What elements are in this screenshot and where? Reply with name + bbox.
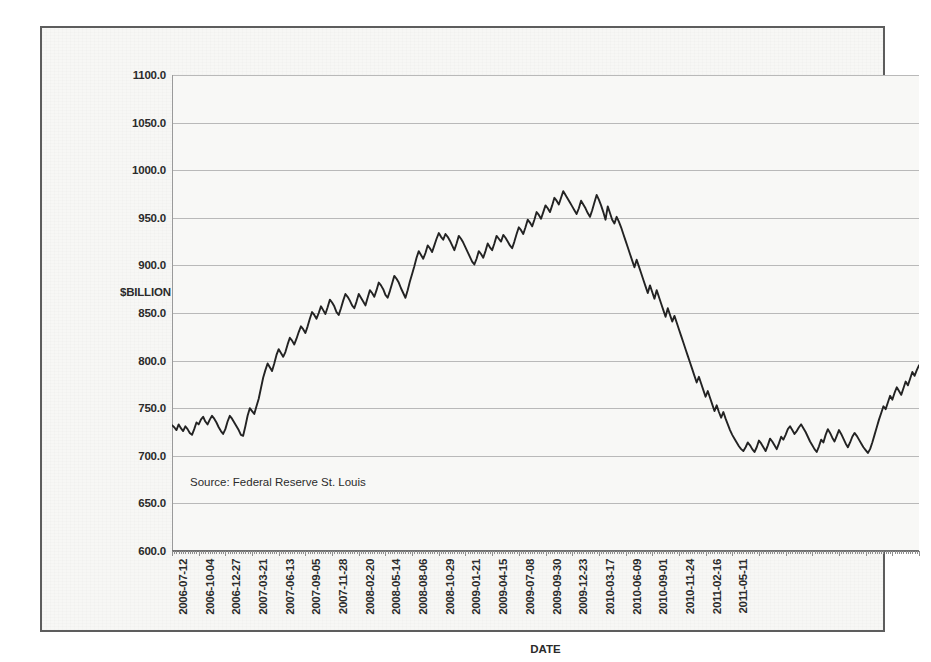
x-axis-minor-tick (219, 551, 220, 554)
x-axis-minor-tick (225, 551, 226, 556)
x-axis-minor-tick (835, 551, 836, 554)
x-axis-minor-tick (612, 551, 613, 554)
x-axis-minor-tick (714, 551, 715, 554)
x-axis-minor-tick (385, 551, 386, 556)
x-axis-minor-tick (234, 551, 235, 554)
x-axis-minor-tick (412, 551, 413, 556)
x-axis-minor-tick (285, 551, 286, 554)
x-axis-minor-tick (439, 551, 440, 556)
x-axis-minor-tick (899, 551, 900, 554)
x-axis-minor-tick (174, 551, 175, 554)
x-axis-minor-tick (459, 551, 460, 554)
x-axis-minor-tick (425, 551, 426, 554)
x-axis-minor-tick (728, 551, 729, 554)
x-axis-minor-tick (414, 551, 415, 554)
x-axis-minor-tick (861, 551, 862, 554)
x-axis-minor-tick (570, 551, 571, 554)
x-axis-minor-tick (461, 551, 462, 554)
y-axis-tick-label: 800.0 (138, 355, 166, 367)
x-axis-minor-tick (552, 551, 553, 554)
x-axis-minor-tick (586, 551, 587, 554)
x-axis-minor-tick (694, 551, 695, 554)
x-axis-minor-tick (823, 551, 824, 554)
x-axis-minor-tick (781, 551, 782, 554)
x-axis-minor-tick (639, 551, 640, 554)
x-axis-minor-tick (561, 551, 562, 554)
x-axis-minor-tick (721, 551, 722, 554)
x-axis-minor-tick (743, 551, 744, 554)
x-axis-minor-tick (799, 551, 800, 554)
x-axis-minor-tick (363, 551, 364, 554)
y-axis-tick-label: 1100.0 (133, 69, 166, 81)
y-axis-tick-label: 1000.0 (132, 164, 166, 176)
x-axis-minor-tick (481, 551, 482, 554)
x-axis-minor-tick (368, 551, 369, 554)
x-axis-minor-tick (637, 551, 638, 554)
x-axis-minor-tick (626, 551, 627, 556)
x-axis-minor-tick (383, 551, 384, 554)
x-axis-minor-tick (276, 551, 277, 554)
x-axis-minor-tick (323, 551, 324, 554)
x-axis-minor-tick (683, 551, 684, 554)
x-axis-minor-tick (492, 551, 493, 556)
x-axis-minor-tick (732, 551, 733, 556)
x-axis-minor-tick (179, 551, 180, 554)
x-axis-minor-tick (423, 551, 424, 554)
x-axis-minor-tick (290, 551, 291, 554)
x-axis-minor-tick (419, 551, 420, 554)
x-axis-minor-tick (497, 551, 498, 554)
x-axis-minor-tick (203, 551, 204, 554)
x-axis-minor-tick (763, 551, 764, 554)
x-axis-minor-tick (196, 551, 197, 554)
x-axis-minor-tick (788, 551, 789, 554)
x-axis-minor-tick (670, 551, 671, 554)
x-axis-minor-tick (254, 551, 255, 554)
x-axis-minor-tick (868, 551, 869, 554)
x-axis-minor-tick (428, 551, 429, 554)
x-axis-minor-tick (274, 551, 275, 554)
x-axis-title: DATE (172, 643, 919, 655)
x-axis-minor-tick (239, 551, 240, 554)
x-axis-minor-tick (654, 551, 655, 554)
x-axis-minor-tick (806, 551, 807, 554)
x-axis-minor-tick (866, 551, 867, 556)
x-axis-minor-tick (176, 551, 177, 554)
x-axis-minor-tick (688, 551, 689, 554)
x-axis-tick-label: 2007-03-21 (257, 559, 269, 615)
x-axis-minor-tick (528, 551, 529, 554)
x-axis-tick-label: 2009-09-30 (551, 559, 563, 615)
x-axis-minor-tick (697, 551, 698, 554)
x-axis-minor-tick (608, 551, 609, 554)
x-axis-minor-tick (503, 551, 504, 554)
x-axis-minor-tick (812, 551, 813, 556)
x-axis-minor-tick (250, 551, 251, 554)
x-axis-minor-tick (810, 551, 811, 554)
x-axis-tick-label: 2007-11-28 (337, 559, 349, 614)
x-axis-minor-tick (681, 551, 682, 554)
x-axis-minor-tick (592, 551, 593, 554)
x-axis-minor-tick (265, 551, 266, 554)
x-axis-minor-tick (357, 551, 358, 554)
x-axis-minor-tick (394, 551, 395, 554)
x-axis-minor-tick (548, 551, 549, 554)
x-axis-minor-tick (737, 551, 738, 554)
x-axis-minor-tick (210, 551, 211, 554)
x-axis-minor-tick (270, 551, 271, 554)
y-axis-tick-label: 750.0 (138, 402, 166, 414)
x-axis-minor-tick (619, 551, 620, 554)
x-axis-minor-tick (261, 551, 262, 554)
x-axis-minor-tick (752, 551, 753, 554)
y-axis-tick-label: 650.0 (138, 497, 166, 509)
x-axis-minor-tick (657, 551, 658, 554)
x-axis-minor-tick (557, 551, 558, 554)
x-axis-minor-tick (877, 551, 878, 554)
x-axis-minor-tick (452, 551, 453, 554)
x-axis-minor-tick (888, 551, 889, 554)
x-axis-minor-tick (443, 551, 444, 554)
x-axis-minor-tick (826, 551, 827, 554)
x-axis-minor-tick (212, 551, 213, 554)
x-axis-minor-tick (288, 551, 289, 554)
x-axis-minor-tick (726, 551, 727, 554)
x-axis-minor-tick (294, 551, 295, 554)
x-axis-minor-tick (397, 551, 398, 554)
